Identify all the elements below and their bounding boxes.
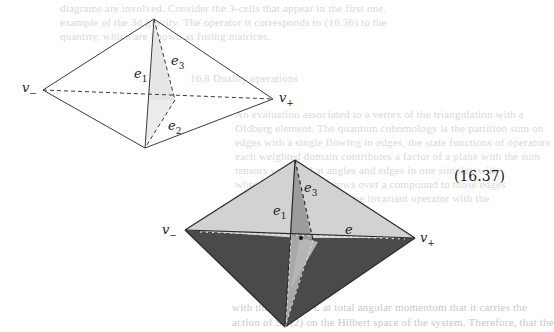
bottom-label-v-minus: v− [162,222,177,240]
bottom-label-e: e [345,222,353,237]
bottom-label-e1: e1 [273,203,286,221]
bottom-label-v-plus: v+ [420,230,435,248]
bottom-label-e3: e3 [304,180,317,198]
